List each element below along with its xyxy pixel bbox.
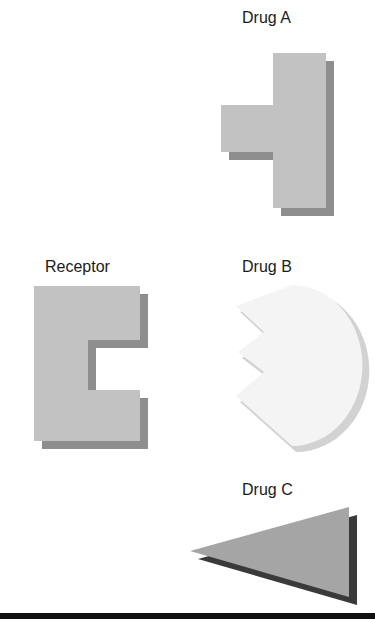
drug-b-label: Drug B (242, 258, 292, 276)
diagram-canvas (0, 0, 375, 619)
bottom-border (0, 613, 375, 619)
receptor-shape (34, 286, 148, 449)
receptor-label: Receptor (45, 258, 110, 276)
drug-a-shape (221, 53, 334, 216)
drug-b-shape (236, 285, 369, 452)
drug-c-label: Drug C (242, 481, 293, 499)
drug-a-label: Drug A (242, 9, 291, 27)
drug-c-shape (190, 507, 357, 605)
